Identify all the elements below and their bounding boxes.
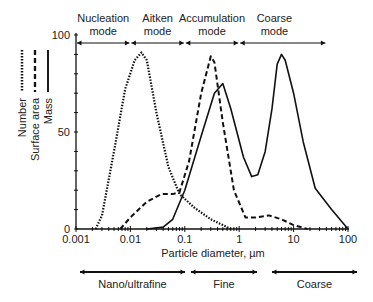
range-label: Coarse <box>297 278 332 290</box>
arrowhead-icon <box>125 40 129 45</box>
arrowhead-icon <box>186 40 191 45</box>
mode-label: Coarse <box>257 12 292 24</box>
range-label: Nano/ultrafine <box>98 278 167 290</box>
arrowhead-icon <box>234 40 239 45</box>
x-tick-label: 0.001 <box>62 233 90 245</box>
y-tick-label: 50 <box>58 126 70 138</box>
mode-label: Aitken <box>142 12 173 24</box>
legend-label: Mass <box>42 98 54 125</box>
arrowhead-icon <box>181 269 186 274</box>
legend-label: Surface area <box>29 97 41 161</box>
mode-label: mode <box>261 25 289 37</box>
arrowhead-icon <box>353 269 358 274</box>
mode-label: mode <box>89 25 117 37</box>
legend-label: Number <box>16 98 28 137</box>
size-range-annotations: Nano/ultrafineFineCoarse <box>80 269 357 290</box>
legend: NumberSurface areaMass <box>16 50 54 161</box>
mode-label: Accumulation <box>179 12 245 24</box>
arrowhead-icon <box>253 269 258 274</box>
particle-size-distribution-chart: NucleationmodeAitkenmodeAccumulationmode… <box>0 0 373 302</box>
arrowhead-icon <box>80 269 85 274</box>
x-tick-label: 10 <box>287 233 299 245</box>
mode-label: Nucleation <box>77 12 129 24</box>
series-surface-area <box>120 56 307 229</box>
mode-label: mode <box>144 25 172 37</box>
series-mass <box>147 54 348 229</box>
arrowhead-icon <box>77 40 82 45</box>
arrowhead-icon <box>321 40 326 45</box>
arrowhead-icon <box>179 40 184 45</box>
x-tick-label: 0.01 <box>120 233 141 245</box>
mode-label: mode <box>198 25 226 37</box>
y-tick-label: 100 <box>52 29 70 41</box>
x-tick-label: 100 <box>339 233 357 245</box>
series-number <box>96 53 231 230</box>
mode-annotations: NucleationmodeAitkenmodeAccumulationmode… <box>77 12 325 46</box>
range-label: Fine <box>213 278 234 290</box>
x-axis-label: Particle diameter, µm <box>161 247 265 259</box>
arrowhead-icon <box>240 40 245 45</box>
arrowhead-icon <box>131 40 136 45</box>
arrowhead-icon <box>272 269 277 274</box>
x-tick-label: 0.1 <box>177 233 192 245</box>
arrowhead-icon <box>191 269 196 274</box>
data-series <box>96 53 348 230</box>
x-tick-label: 1 <box>236 233 242 245</box>
axes: 0501000.0010.010.1110100 <box>52 29 358 245</box>
